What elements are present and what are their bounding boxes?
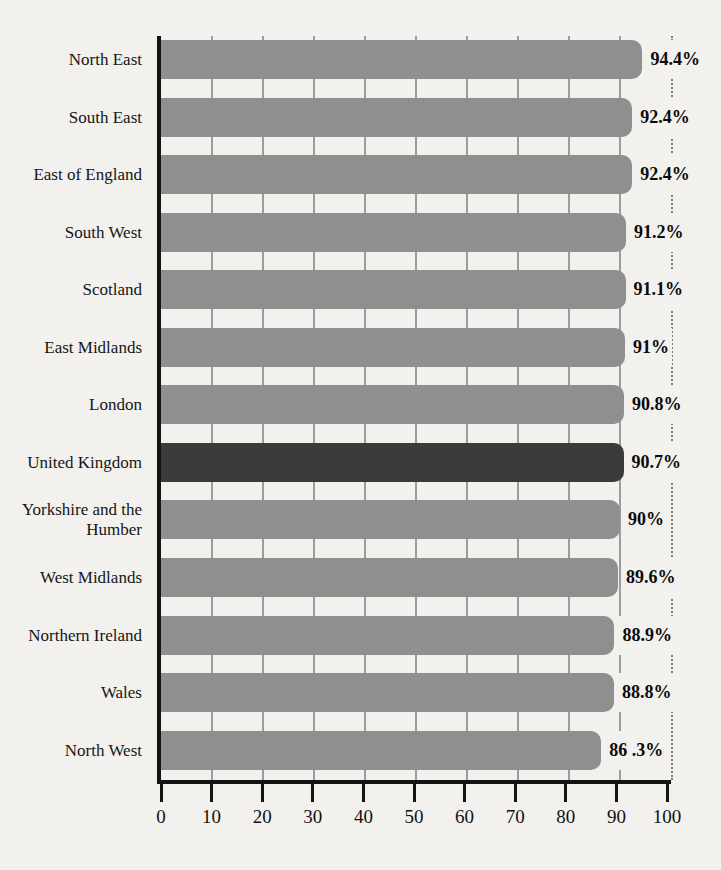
tick-mark-80 (564, 784, 567, 802)
bar (161, 673, 614, 712)
tick-mark-100 (666, 784, 669, 802)
tick-mark-10 (210, 784, 213, 802)
plot-area: 94.4%92.4%92.4%91.2%91.1%91%90.8%90.7%90… (157, 36, 671, 784)
tick-mark-0 (160, 784, 163, 802)
value-label: 86 .3% (606, 731, 666, 770)
value-label: 90% (625, 500, 667, 539)
tick-label-40: 40 (339, 806, 387, 828)
category-label: London (0, 385, 142, 424)
value-label: 91.2% (631, 213, 687, 252)
category-label: North West (0, 731, 142, 770)
tick-label-100: 100 (643, 806, 691, 828)
category-axis-labels: North EastSouth EastEast of EnglandSouth… (0, 36, 148, 784)
bar (161, 40, 642, 79)
tick-label-50: 50 (390, 806, 438, 828)
bar (161, 616, 614, 655)
tick-mark-30 (311, 784, 314, 802)
bar (161, 155, 632, 194)
tick-mark-90 (615, 784, 618, 802)
value-label: 90.7% (629, 443, 685, 482)
bar (161, 500, 620, 539)
tick-label-20: 20 (238, 806, 286, 828)
tick-label-0: 0 (137, 806, 185, 828)
value-label: 92.4% (637, 98, 693, 137)
value-label: 91% (630, 328, 672, 367)
tick-mark-20 (261, 784, 264, 802)
category-label: East Midlands (0, 328, 142, 367)
value-label: 89.6% (623, 558, 679, 597)
category-label: North East (0, 40, 142, 79)
bar (161, 98, 632, 137)
bar (161, 558, 618, 597)
tick-mark-70 (514, 784, 517, 802)
category-label: Wales (0, 673, 142, 712)
category-label: Yorkshire and the Humber (0, 500, 142, 539)
bar (161, 270, 626, 309)
bar (161, 385, 624, 424)
category-label: South East (0, 98, 142, 137)
value-label: 90.8% (629, 385, 685, 424)
tick-label-30: 30 (289, 806, 337, 828)
value-label: 94.4% (647, 40, 703, 79)
x-axis-tick-labels: 0102030405060708090100 (161, 806, 667, 830)
bar (161, 328, 625, 367)
category-label: Northern Ireland (0, 616, 142, 655)
category-label: East of England (0, 155, 142, 194)
value-label: 88.8% (619, 673, 675, 712)
tick-label-90: 90 (592, 806, 640, 828)
value-label: 88.9% (619, 616, 675, 655)
category-label: South West (0, 213, 142, 252)
category-label: Scotland (0, 270, 142, 309)
plot-inner: 94.4%92.4%92.4%91.2%91.1%91%90.8%90.7%90… (161, 36, 671, 780)
bar-highlighted (161, 443, 624, 482)
value-label: 91.1% (631, 270, 687, 309)
category-label: United Kingdom (0, 443, 142, 482)
tick-mark-50 (413, 784, 416, 802)
tick-label-10: 10 (188, 806, 236, 828)
bar (161, 213, 626, 252)
value-label: 92.4% (637, 155, 693, 194)
x-axis-tick-marks (161, 784, 667, 802)
tick-mark-60 (463, 784, 466, 802)
category-label: West Midlands (0, 558, 142, 597)
tick-label-70: 70 (491, 806, 539, 828)
bar (161, 731, 601, 770)
tick-mark-40 (362, 784, 365, 802)
tick-label-80: 80 (542, 806, 590, 828)
tick-label-60: 60 (441, 806, 489, 828)
bar-chart: North EastSouth EastEast of EnglandSouth… (0, 0, 721, 870)
